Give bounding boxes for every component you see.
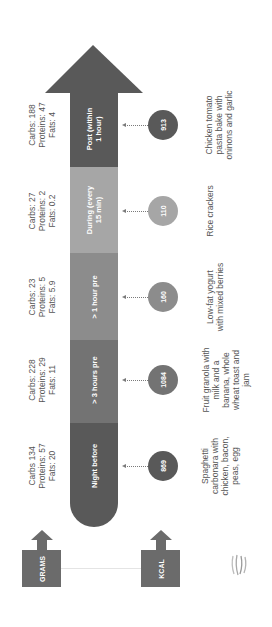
food-line: chicken, bacon, [220, 436, 230, 495]
connector-three-hours-pre [125, 380, 148, 381]
macro-proteins: Proteins: 5 [37, 277, 47, 318]
food-line: jam [241, 347, 251, 412]
macros-night-before: Carbs 134 Proteins: 57 Fats: 20 [27, 443, 57, 488]
food-night-before: Spaghetti carbonara with chicken, bacon,… [200, 436, 240, 495]
connector-during [125, 211, 148, 212]
macro-carbs: Carbs: 228 [27, 357, 37, 402]
kcal-circle-post: 913 [148, 110, 178, 140]
food-line: oninons and garlic [224, 91, 234, 160]
macros-post: Carbs: 188 Proteins: 47 Fats: 4 [27, 102, 57, 147]
food-post: Chicken tomato pasta bake with oninons a… [204, 91, 234, 160]
macro-carbs: Carbs: 188 [27, 102, 37, 147]
stage-label-line: Post (within [85, 108, 94, 151]
macros-during: Carbs: 27 Proteins: 2 Fats: 0.2 [27, 191, 57, 232]
kcal-arrow-icon [149, 530, 173, 552]
connector-night-before [125, 466, 148, 467]
connector-arrow-icon [122, 295, 126, 299]
macro-carbs: Carbs 134 [27, 443, 37, 488]
grams-arrow-icon [30, 530, 54, 552]
connector-post [125, 125, 148, 126]
food-line: Chicken tomato [204, 91, 214, 160]
kcal-circle-one-hour-pre: 160 [148, 282, 178, 312]
macro-fats: Fats: 20 [47, 443, 57, 488]
food-line: carbonara with [210, 436, 220, 495]
connector-arrow-icon [122, 464, 126, 468]
food-line: wheat toast and [231, 347, 241, 412]
macro-fats: Fats: 5.9 [47, 277, 57, 318]
stage-label-line: 1 hour) [94, 108, 103, 151]
legend-divider [61, 568, 141, 569]
macro-proteins: Proteins: 2 [37, 191, 47, 232]
stage-label-post: Post (within 1 hour) [85, 108, 103, 151]
stage-label-one-hour-pre: > 1 hour pre [90, 275, 99, 318]
stage-label-three-hours-pre: > 3 hours pre [90, 356, 99, 403]
kcal-value: 160 [160, 291, 167, 303]
connector-arrow-icon [122, 378, 126, 382]
food-one-hour-pre: Low-fat yogurt with mixed berries [205, 263, 225, 332]
food-line: banana, whole [221, 347, 231, 412]
stripes-logo-icon [230, 554, 250, 576]
food-line: Fruit granola with [201, 347, 211, 412]
food-line: pasta bake with [214, 91, 224, 160]
connector-arrow-icon [122, 123, 126, 127]
food-line: milk and a [211, 347, 221, 412]
connector-arrow-icon [122, 209, 126, 213]
macros-one-hour-pre: Carbs: 23 Proteins: 5 Fats: 5.9 [27, 277, 57, 318]
kcal-circle-night-before: 869 [148, 451, 178, 481]
food-line: Rice crackers [205, 185, 215, 236]
stage-label-night-before: Night before [90, 444, 99, 488]
food-three-hours-pre: Fruit granola with milk and a banana, wh… [201, 347, 251, 412]
macro-fats: Fats: 4 [47, 102, 57, 147]
food-line: Low-fat yogurt [205, 263, 215, 332]
food-during: Rice crackers [205, 185, 215, 236]
food-line: peas, egg [230, 436, 240, 495]
legend-grams-label: GRAMS [38, 555, 45, 581]
macro-carbs: Carbs: 23 [27, 277, 37, 318]
stage-label-line: 15 min) [94, 186, 103, 234]
kcal-value: 1084 [160, 372, 167, 388]
macro-carbs: Carbs: 27 [27, 191, 37, 232]
kcal-value: 110 [160, 205, 167, 216]
stage-label-during: During (every 15 min) [85, 186, 103, 234]
macro-fats: Fats: 11 [47, 357, 57, 402]
macro-fats: Fats: 0.2 [47, 191, 57, 232]
macro-proteins: Proteins: 47 [37, 102, 47, 147]
kcal-value: 869 [160, 460, 167, 472]
legend-kcal-label: KCAL [157, 559, 164, 578]
stage-label-line: During (every [85, 186, 94, 234]
connector-one-hour-pre [125, 297, 148, 298]
macro-proteins: Proteins: 29 [37, 357, 47, 402]
kcal-circle-three-hours-pre: 1084 [148, 365, 178, 395]
food-line: Spaghetti [200, 436, 210, 495]
macro-proteins: Proteins: 57 [37, 443, 47, 488]
food-line: with mixed berries [215, 263, 225, 332]
kcal-circle-during: 110 [148, 196, 178, 226]
macros-three-hours-pre: Carbs: 228 Proteins: 29 Fats: 11 [27, 357, 57, 402]
kcal-value: 913 [160, 119, 167, 131]
